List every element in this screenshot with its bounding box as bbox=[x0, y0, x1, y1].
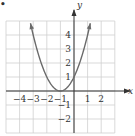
x-axis-label: x bbox=[128, 86, 133, 96]
x-tick-label: −3 bbox=[27, 94, 41, 104]
y-axis-label: y bbox=[76, 0, 83, 10]
y-tick-label: −2 bbox=[58, 114, 71, 124]
y-tick-label: 4 bbox=[65, 30, 71, 40]
y-tick-label: 2 bbox=[65, 58, 71, 68]
x-tick-label: 1 bbox=[85, 94, 91, 104]
x-tick-label: −4 bbox=[13, 94, 27, 104]
x-tick-label: −2 bbox=[40, 94, 53, 104]
x-tick-label: 2 bbox=[98, 94, 104, 104]
y-tick-label: 3 bbox=[65, 44, 71, 54]
y-tick-label: 1 bbox=[65, 72, 71, 82]
problem-marker: • bbox=[0, 0, 6, 9]
parabola-graph: • −4−3−2−112 4321−1−2 x y bbox=[0, 0, 135, 136]
y-axis-arrow-icon bbox=[72, 9, 77, 16]
y-tick-label: −1 bbox=[58, 100, 71, 110]
